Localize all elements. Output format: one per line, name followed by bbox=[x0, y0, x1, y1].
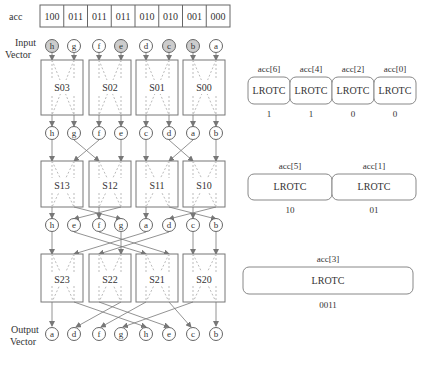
output-node: b bbox=[214, 329, 219, 339]
acc-row-label: acc bbox=[9, 11, 23, 22]
lrotc-output: 0 bbox=[393, 109, 398, 119]
lrotc-unit: LROTC bbox=[274, 181, 307, 192]
lrotc-output: 01 bbox=[370, 205, 379, 215]
input-vector-label: Input bbox=[15, 37, 36, 48]
stage1-node: c bbox=[144, 128, 148, 138]
stage1-node: f bbox=[98, 128, 101, 138]
lrotc-acc-label: acc[6] bbox=[258, 64, 280, 74]
switch-label: S11 bbox=[149, 180, 164, 191]
lrotc-unit: LROTC bbox=[379, 85, 412, 96]
lrotc-output: 0 bbox=[351, 109, 356, 119]
acc-cell: 011 bbox=[116, 11, 131, 22]
lrotc-unit: LROTC bbox=[358, 181, 391, 192]
input-arrows bbox=[52, 53, 216, 60]
output-vector-label: Output bbox=[11, 324, 39, 335]
output-node: a bbox=[50, 329, 54, 339]
output-node: c bbox=[191, 329, 195, 339]
stage1-out-arrows bbox=[52, 207, 216, 219]
stage2-node: c bbox=[191, 220, 195, 230]
lrotc-unit: LROTC bbox=[337, 85, 370, 96]
stage2-node: e bbox=[72, 220, 76, 230]
stage2-node: d bbox=[167, 220, 172, 230]
lrotc-output: 0011 bbox=[319, 300, 337, 310]
switch-label: S01 bbox=[149, 82, 165, 93]
stage2-node: a bbox=[144, 220, 148, 230]
switch-label: S23 bbox=[54, 274, 70, 285]
output-node: f bbox=[98, 329, 101, 339]
stage2-node: g bbox=[119, 220, 124, 230]
acc-row: 100 011 011 011 010 010 001 000 bbox=[40, 5, 230, 27]
lrotc-acc-label: acc[3] bbox=[317, 254, 339, 264]
acc-cell: 001 bbox=[187, 11, 202, 22]
lrotc-acc-label: acc[5] bbox=[279, 161, 301, 171]
output-vector-label: Vector bbox=[10, 336, 37, 347]
switch-label: S12 bbox=[102, 180, 118, 191]
output-node: g bbox=[119, 329, 124, 339]
lrotc-acc-label: acc[4] bbox=[300, 64, 322, 74]
stage2-switches: S23 S22 S21 S20 bbox=[41, 254, 225, 302]
switch-label: S20 bbox=[196, 274, 212, 285]
input-node: e bbox=[119, 41, 123, 51]
lrotc-acc-label: acc[1] bbox=[363, 161, 385, 171]
lrotc-stage0: acc[6] acc[4] acc[2] acc[0] LROTC LROTC … bbox=[248, 64, 416, 119]
stage1-switches: S13 S12 S11 S10 bbox=[41, 161, 225, 207]
stage0-switches: S03 S02 S01 S00 bbox=[41, 60, 225, 115]
stage1-node: a bbox=[191, 128, 195, 138]
output-node: h bbox=[144, 329, 149, 339]
acc-cell: 010 bbox=[139, 11, 154, 22]
acc-cell: 011 bbox=[68, 11, 83, 22]
stage2-node: b bbox=[214, 220, 219, 230]
stage1-node: e bbox=[119, 128, 123, 138]
output-node: d bbox=[72, 329, 77, 339]
lrotc-stage1: acc[5] acc[1] LROTC LROTC 10 01 bbox=[248, 161, 416, 215]
switch-label: S22 bbox=[102, 274, 118, 285]
benes-network-diagram: acc 100 011 011 011 010 010 001 000 Inpu… bbox=[0, 0, 435, 371]
switch-label: S02 bbox=[102, 82, 118, 93]
switch-label: S13 bbox=[54, 180, 70, 191]
lrotc-unit: LROTC bbox=[253, 85, 286, 96]
lrotc-unit: LROTC bbox=[295, 85, 328, 96]
input-node: g bbox=[72, 41, 77, 51]
output-node: e bbox=[167, 329, 171, 339]
switch-label: S10 bbox=[196, 180, 212, 191]
input-node: b bbox=[191, 41, 196, 51]
stage0-arrows bbox=[52, 115, 216, 126]
stage1-node: d bbox=[167, 128, 172, 138]
input-node: f bbox=[98, 41, 101, 51]
stage2-node: h bbox=[50, 220, 55, 230]
lrotc-output: 1 bbox=[267, 109, 272, 119]
lrotc-output: 1 bbox=[309, 109, 314, 119]
input-node: h bbox=[50, 41, 55, 51]
lrotc-stage2: acc[3] LROTC 0011 bbox=[243, 254, 413, 310]
input-node: c bbox=[167, 41, 171, 51]
acc-cell: 011 bbox=[92, 11, 107, 22]
stage1-node: g bbox=[72, 128, 77, 138]
stage2-arrows bbox=[52, 232, 216, 254]
lrotc-unit: LROTC bbox=[312, 275, 345, 286]
lrotc-acc-label: acc[0] bbox=[384, 64, 406, 74]
acc-cell: 100 bbox=[44, 11, 59, 22]
stage1-arrows bbox=[52, 140, 216, 161]
switch-label: S03 bbox=[54, 82, 70, 93]
acc-cell: 010 bbox=[163, 11, 178, 22]
lrotc-acc-label: acc[2] bbox=[342, 64, 364, 74]
switch-label: S00 bbox=[196, 82, 212, 93]
lrotc-output: 10 bbox=[286, 205, 296, 215]
input-node: a bbox=[214, 41, 218, 51]
input-vector-label: Vector bbox=[5, 49, 32, 60]
stage1-node: h bbox=[50, 128, 55, 138]
stage1-node: b bbox=[214, 128, 219, 138]
switch-label: S21 bbox=[149, 274, 165, 285]
output-arrows bbox=[52, 302, 216, 327]
input-node: d bbox=[144, 41, 149, 51]
acc-cell: 000 bbox=[211, 11, 226, 22]
stage2-node: f bbox=[98, 220, 101, 230]
